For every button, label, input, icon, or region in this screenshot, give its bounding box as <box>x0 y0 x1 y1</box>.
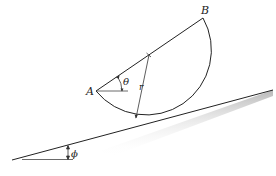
label-a: A <box>85 85 94 98</box>
label-phi: ϕ <box>71 148 78 159</box>
diagram-canvas: ϕ θ r A B <box>0 0 276 176</box>
semicircle-body <box>96 18 211 115</box>
label-r: r <box>139 82 144 92</box>
phi-angle-arrow <box>67 146 70 160</box>
label-b: B <box>200 4 209 17</box>
label-theta: θ <box>123 76 129 87</box>
